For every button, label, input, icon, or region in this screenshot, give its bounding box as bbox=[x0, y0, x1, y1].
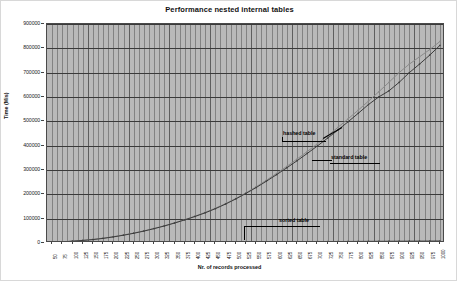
y-axis-tick-mark bbox=[41, 169, 44, 170]
x-axis-tick-mark bbox=[347, 242, 348, 244]
x-axis-tick-label: 750 bbox=[339, 252, 344, 259]
series-point bbox=[358, 109, 359, 110]
chart-figure: Performance nested internal tables Time … bbox=[0, 0, 457, 281]
series-point bbox=[439, 41, 440, 42]
series-point bbox=[398, 82, 399, 83]
y-axis-tick-label: 200000 bbox=[23, 190, 40, 196]
x-axis-tick-mark bbox=[184, 242, 185, 244]
x-axis-tick-mark bbox=[92, 242, 93, 244]
series-point bbox=[266, 180, 267, 181]
y-axis-tick-mark bbox=[41, 193, 44, 194]
x-axis-tick-label: 850 bbox=[380, 252, 385, 259]
series-point bbox=[164, 225, 165, 226]
x-axis-tick-label: 925 bbox=[410, 252, 415, 259]
annotation-standard-table: standard table bbox=[331, 154, 367, 160]
series-point bbox=[409, 72, 410, 73]
series-point bbox=[429, 49, 430, 50]
series-line bbox=[52, 42, 440, 242]
annotation-pointer-sorted bbox=[244, 226, 279, 227]
y-axis-tick-label: 500000 bbox=[23, 117, 40, 123]
x-axis-tick-mark bbox=[153, 242, 154, 244]
x-axis-tick-mark bbox=[276, 242, 277, 244]
x-axis-tick-label: 500 bbox=[237, 252, 242, 259]
y-axis-tick-label: 400000 bbox=[23, 142, 40, 148]
x-axis-tick-mark bbox=[112, 242, 113, 244]
y-axis-tick-mark bbox=[41, 242, 44, 243]
x-axis-tick-label: 650 bbox=[298, 252, 303, 259]
y-axis-tick-label: 300000 bbox=[23, 166, 40, 172]
x-axis-tick-mark bbox=[123, 242, 124, 244]
y-axis-tick-label: 100000 bbox=[23, 215, 40, 221]
x-axis-tick-label: 125 bbox=[84, 252, 89, 259]
series-point bbox=[133, 233, 134, 234]
x-axis-tick-mark bbox=[194, 242, 195, 244]
series-point bbox=[368, 100, 369, 101]
annotation-underline-sorted bbox=[278, 226, 320, 227]
y-axis-tick-mark bbox=[41, 72, 44, 73]
x-axis-tick-label: 200 bbox=[114, 252, 119, 259]
series-point bbox=[153, 228, 154, 229]
x-axis-tick-label: 475 bbox=[227, 252, 232, 259]
x-axis-tick-label: 975 bbox=[431, 252, 436, 259]
series-line bbox=[52, 45, 440, 242]
series-point bbox=[409, 63, 410, 64]
x-axis-title: Nr. of records processed bbox=[1, 264, 457, 270]
series-point bbox=[317, 143, 318, 144]
x-axis-tick-mark bbox=[388, 242, 389, 244]
series-point bbox=[439, 45, 440, 46]
y-axis-tick-label: 900000 bbox=[23, 20, 40, 26]
annotation-sorted-table: sorted table bbox=[279, 217, 309, 223]
x-axis-tick-label: 425 bbox=[206, 252, 211, 259]
x-axis-tick-mark bbox=[255, 242, 256, 244]
x-axis-tick-label: 250 bbox=[135, 252, 140, 259]
series-point bbox=[286, 166, 287, 167]
x-axis-tick-mark bbox=[82, 242, 83, 244]
annotation-underline-hashed bbox=[282, 141, 326, 142]
series-point bbox=[276, 174, 277, 175]
x-axis-tick-mark bbox=[286, 242, 287, 244]
series-point bbox=[327, 137, 328, 138]
x-axis-tick-mark bbox=[214, 242, 215, 244]
x-axis-tick-label: 150 bbox=[94, 252, 99, 259]
y-axis-tick-mark bbox=[41, 47, 44, 48]
series-lines bbox=[47, 24, 444, 242]
x-axis-tick-mark bbox=[327, 242, 328, 244]
series-point bbox=[194, 216, 195, 217]
x-axis-tick-mark bbox=[296, 242, 297, 244]
x-axis-tick-mark bbox=[133, 242, 134, 244]
x-axis-tick-label: 100 bbox=[74, 252, 79, 259]
x-axis-tick-labels: 5075100125150175200225250275300325350375… bbox=[46, 243, 444, 261]
series-point bbox=[123, 235, 124, 236]
x-axis-tick-label: 800 bbox=[359, 252, 364, 259]
x-axis-tick-mark bbox=[429, 242, 430, 244]
annotation-hashed-table: hashed table bbox=[283, 130, 315, 136]
series-point bbox=[307, 153, 308, 154]
series-point bbox=[429, 54, 430, 55]
series-point bbox=[286, 167, 287, 168]
x-axis-tick-label: 725 bbox=[329, 252, 334, 259]
x-axis-tick-label: 575 bbox=[267, 252, 272, 259]
x-axis-tick-mark bbox=[378, 242, 379, 244]
x-axis-tick-mark bbox=[204, 242, 205, 244]
series-point bbox=[225, 203, 226, 204]
x-axis-tick-mark bbox=[163, 242, 164, 244]
series-point bbox=[235, 198, 236, 199]
x-axis-tick-label: 900 bbox=[400, 252, 405, 259]
x-axis-tick-label: 825 bbox=[369, 252, 374, 259]
x-axis-tick-mark bbox=[245, 242, 246, 244]
series-point bbox=[388, 90, 389, 91]
plot-area bbox=[46, 23, 444, 242]
x-axis-tick-label: 300 bbox=[155, 252, 160, 259]
annotation-drop-sorted bbox=[244, 226, 245, 240]
x-axis-tick-label: 625 bbox=[288, 252, 293, 259]
x-axis-tick-mark bbox=[408, 242, 409, 244]
series-point bbox=[388, 82, 389, 83]
x-axis-tick-label: 50 bbox=[53, 254, 58, 259]
x-axis-tick-label: 375 bbox=[186, 252, 191, 259]
y-axis-tick-label: 700000 bbox=[23, 69, 40, 75]
x-axis-tick-label: 350 bbox=[176, 252, 181, 259]
y-axis-tick-mark bbox=[41, 120, 44, 121]
x-axis-tick-label: 950 bbox=[420, 252, 425, 259]
series-point bbox=[143, 230, 144, 231]
x-axis-tick-mark bbox=[225, 242, 226, 244]
